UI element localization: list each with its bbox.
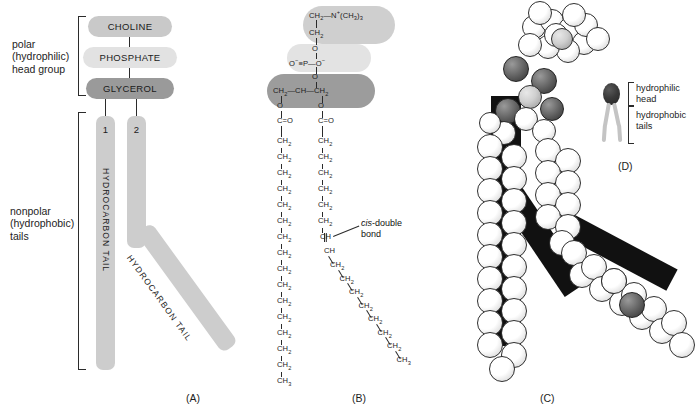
hydrophobic-line1: hydrophobic [636, 110, 694, 121]
chain-unit-ch2: CH2 [318, 136, 332, 147]
chain-unit-ch2: CH2 [387, 341, 401, 352]
glycerol-atom-4 [479, 112, 501, 134]
chain-unit-ch2: CH2 [368, 314, 382, 325]
chain-unit-ch: CH [320, 232, 331, 241]
phosphorus-atom [518, 85, 542, 109]
chain-unit-ch2: CH2 [318, 168, 332, 179]
chain-unit-ch2: CH2 [349, 287, 363, 298]
capsule-choline: CHOLINE [88, 16, 172, 37]
chain-unit-ch2: CH2 [318, 152, 332, 163]
panel-b: CH2—N+(CH3)3 CH2 O O−≡P—O− O CH2—CH—CH2 … [255, 0, 450, 419]
bracket-hydrophilic-head [628, 82, 629, 106]
tail1-terminal [489, 356, 515, 382]
head-atom-core [551, 28, 573, 50]
panel-a: polar (hydrophilic) head group nonpolar … [0, 0, 240, 419]
panel-d-label: (D) [618, 160, 633, 172]
bracket-head-group [78, 16, 79, 96]
chain-unit-ch2: CH2 [330, 260, 344, 271]
tail-1-number: 1 [96, 124, 115, 135]
phospholipid-tail-left-lower [602, 124, 607, 142]
chain-unit-ch2: CH2 [318, 200, 332, 211]
tail-2-number: 2 [127, 124, 146, 135]
hydrophobic-line2: tails [636, 121, 694, 132]
head-atom-6 [518, 33, 542, 57]
label-polar-head-group: polar (hydrophilic) head group [12, 38, 78, 75]
phospholipid-head-symbol [603, 83, 620, 105]
head-atom-10 [562, 3, 586, 27]
oxygen-atom-1 [503, 56, 529, 82]
tails-label-line3: tails [10, 230, 80, 242]
cis-line2: bond [361, 229, 402, 240]
panel-c-space-filling-model [455, 4, 640, 374]
chain-unit-ch: CH [324, 246, 335, 255]
connector-glycerol-tail2 [136, 99, 137, 116]
label-hydrophilic-head: hydrophilic head [636, 83, 692, 105]
panel-a-label: (A) [186, 392, 200, 404]
hydrophilic-line2: head [636, 94, 692, 105]
bracket-hydrophobic-tails [628, 106, 629, 144]
tail2-atom-D2-5 [669, 332, 695, 358]
panel-b-label: (B) [352, 392, 366, 404]
cis-rest: -double [372, 218, 402, 228]
chain-unit-ch2: CH2 [318, 216, 332, 227]
label-hydrophobic-tails: hydrophobic tails [636, 110, 694, 132]
tail2-dark-atom [619, 292, 645, 318]
panel-d: hydrophilic head hydrophobic tails [595, 78, 691, 188]
cis-double-bond-label: cis-double bond [361, 218, 402, 240]
chain-terminal-ch3: CH3 [397, 355, 411, 366]
tails-label-line1: nonpolar [10, 205, 80, 217]
head-atom-8 [586, 27, 610, 51]
head-label-line1: polar [12, 38, 78, 50]
head-label-line2: (hydrophilic) [12, 50, 78, 62]
head-label-line3: head group [12, 63, 78, 75]
capsule-phosphate: PHOSPHATE [83, 47, 177, 68]
oxygen-atom-4 [540, 97, 564, 121]
panel-c-label: (C) [540, 392, 555, 404]
connector-glycerol-tail1 [105, 99, 106, 116]
cis-italic: cis [361, 218, 372, 228]
tail-1-label: HYDROCARBON TAIL [101, 168, 111, 288]
tail2-atom-extra [601, 268, 627, 294]
connector-choline-phosphate [129, 37, 130, 47]
label-nonpolar-tails: nonpolar (hydrophobic) tails [10, 205, 80, 242]
head-atom-11 [528, 1, 552, 25]
connector-phosphate-glycerol [129, 68, 130, 78]
phospholipid-tail-right-lower [617, 124, 622, 142]
chain2-double-bond [324, 233, 325, 242]
tails-label-line2: (hydrophobic) [10, 217, 80, 229]
chain-unit-ch2: CH2 [318, 184, 332, 195]
hydrophilic-line1: hydrophilic [636, 83, 692, 94]
capsule-glycerol: GLYCEROL [86, 78, 174, 99]
chain-2-unsaturated: CH2CH2CH2CH2CH2CH2CHCHCH2CH2CH2CH2CH2CH2… [255, 0, 395, 380]
tail1-atom-L9 [477, 332, 503, 358]
